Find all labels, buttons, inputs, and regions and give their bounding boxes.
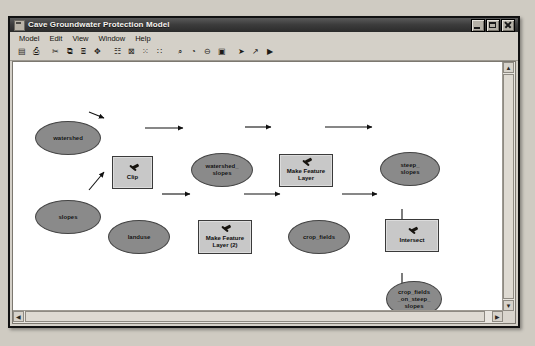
paste-icon[interactable]: ⌸ [77, 46, 90, 59]
menu-help[interactable]: Help [130, 33, 155, 44]
node-label: steep_ slopes [398, 162, 421, 176]
copy-icon[interactable]: ⧉ [63, 46, 76, 59]
zoom-out-icon-glyph: ⊖ [204, 48, 211, 56]
select-pointer-icon[interactable]: ➤ [235, 46, 248, 59]
toolbar-separator [229, 46, 234, 59]
run-icon[interactable]: ▶ [263, 46, 276, 59]
window-controls [471, 19, 516, 32]
desktop-background: Cave Groundwater Protection Model ModelE… [0, 0, 535, 346]
node-label: slopes [56, 214, 79, 221]
cut-icon[interactable]: ✂ [49, 46, 62, 59]
menu-edit[interactable]: Edit [44, 33, 67, 44]
print-icon[interactable]: ⎙ [29, 46, 42, 59]
menu-model[interactable]: Model [14, 33, 44, 44]
grid-icon[interactable]: ∷ [153, 46, 166, 59]
zoom-in-icon-glyph: ⌕ [178, 48, 182, 56]
node-label: watershed [51, 135, 85, 142]
window-title: Cave Groundwater Protection Model [28, 20, 170, 30]
copy-icon-glyph: ⧉ [67, 48, 73, 56]
hammer-icon [218, 226, 232, 235]
tool-node-clip[interactable]: Clip [112, 156, 153, 189]
node-label: Intersect [398, 237, 425, 244]
auto-layout-icon-glyph: ☷ [114, 48, 121, 56]
hammer-icon [299, 159, 313, 168]
full-extent-icon[interactable]: ⊠ [125, 46, 138, 59]
scroll-up-button[interactable]: ▲ [503, 62, 514, 73]
zoom-out-icon[interactable]: ⊖ [201, 46, 214, 59]
hammer-icon [405, 228, 419, 237]
window-title-bar[interactable]: Cave Groundwater Protection Model [10, 18, 518, 32]
model-builder-window: Cave Groundwater Protection Model ModelE… [8, 16, 520, 328]
scroll-right-button[interactable]: ▶ [492, 311, 503, 322]
pan-icon-glyph: ◔ [191, 48, 196, 56]
model-canvas-container: watershedslopesClipwatershed_ slopesMake… [12, 61, 516, 324]
data-node-slopes[interactable]: slopes [35, 200, 101, 234]
model-window-icon [14, 20, 25, 31]
node-label: crop_fields [301, 234, 337, 241]
vertical-scrollbar[interactable]: ▲ ▼ [502, 62, 515, 311]
data-node-watershed_slopes[interactable]: watershed_ slopes [191, 153, 253, 187]
full-extent-icon-glyph: ⊠ [128, 48, 135, 56]
hammer-icon [126, 165, 140, 174]
minimize-button[interactable] [471, 19, 485, 32]
data-node-watershed[interactable]: watershed [35, 121, 101, 155]
menu-window[interactable]: Window [94, 33, 131, 44]
zoom-in-icon[interactable]: ⌕ [173, 46, 186, 59]
data-node-steep_slopes[interactable]: steep_ slopes [380, 152, 440, 186]
vertical-scroll-thumb[interactable] [503, 74, 514, 299]
node-label: landuse [126, 234, 153, 241]
tool-node-make_feature_layer_2[interactable]: Make Feature Layer (2) [198, 220, 252, 254]
tool-node-make_feature_layer[interactable]: Make Feature Layer [279, 154, 333, 187]
add-data-icon[interactable]: ✥ [91, 46, 104, 59]
pan-icon[interactable]: ◔ [187, 46, 200, 59]
connector-layer [13, 62, 502, 313]
connect-icon-glyph: ↗ [252, 48, 259, 56]
run-icon-glyph: ▶ [267, 48, 273, 56]
grid-icon-glyph: ∷ [157, 48, 162, 56]
toolbar-separator [167, 46, 172, 59]
auto-layout-icon[interactable]: ☷ [111, 46, 124, 59]
select-pointer-icon-glyph: ➤ [238, 48, 245, 56]
data-node-landuse[interactable]: landuse [108, 220, 170, 254]
maximize-button[interactable] [486, 19, 500, 32]
scrollbar-corner [503, 311, 515, 323]
tool-bar: ▤⎙✂⧉⌸✥☷⊠⁙∷⌕◔⊖▣➤↗▶ [10, 44, 518, 61]
node-label: watershed_ slopes [203, 163, 240, 177]
close-button[interactable] [501, 19, 515, 32]
tool-node-intersect[interactable]: Intersect [385, 219, 439, 252]
diagram-properties-icon-glyph: ⁙ [142, 48, 149, 56]
model-canvas[interactable]: watershedslopesClipwatershed_ slopesMake… [13, 62, 502, 313]
scroll-down-button[interactable]: ▼ [503, 300, 514, 311]
horizontal-scroll-thumb[interactable] [25, 311, 485, 322]
node-label: Clip [126, 174, 139, 181]
add-data-icon-glyph: ✥ [94, 48, 101, 56]
toolbar-separator [105, 46, 110, 59]
node-label: Make Feature Layer [286, 168, 326, 182]
node-label: crop_fields _on_steep_ slopes [395, 289, 432, 310]
diagram-properties-icon[interactable]: ⁙ [139, 46, 152, 59]
menu-view[interactable]: View [67, 33, 93, 44]
paste-icon-glyph: ⌸ [81, 48, 86, 56]
print-icon-glyph: ⎙ [33, 48, 39, 56]
zoom-window-icon[interactable]: ▣ [215, 46, 228, 59]
save-icon[interactable]: ▤ [15, 46, 28, 59]
scroll-left-button[interactable]: ◀ [13, 311, 24, 322]
node-label: Make Feature Layer (2) [205, 235, 245, 249]
horizontal-scrollbar[interactable]: ◀ ▶ [13, 310, 503, 323]
cut-icon-glyph: ✂ [52, 48, 59, 56]
connect-icon[interactable]: ↗ [249, 46, 262, 59]
toolbar-separator [43, 46, 48, 59]
data-node-crop_fields[interactable]: crop_fields [288, 220, 350, 254]
zoom-window-icon-glyph: ▣ [218, 48, 226, 56]
save-icon-glyph: ▤ [18, 48, 26, 56]
